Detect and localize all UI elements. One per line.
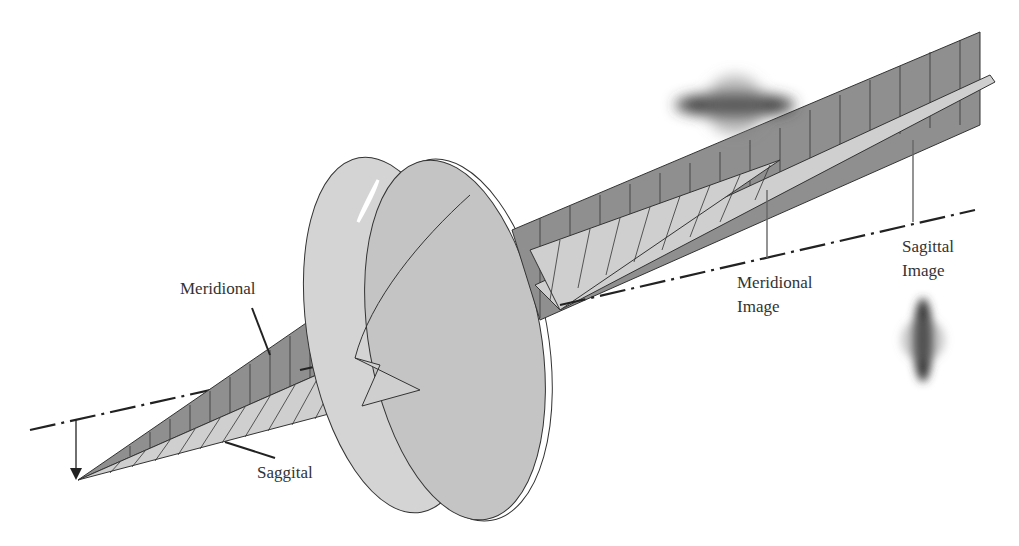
meridional-pointer: [252, 308, 270, 355]
saggital-label: Saggital: [257, 462, 313, 484]
sagittal-image-label-line1: Sagittal: [902, 236, 954, 258]
object-arrow: [70, 420, 82, 480]
meridional-label: Meridional: [180, 278, 256, 300]
astigmatism-diagram: [0, 0, 1019, 546]
sagittal-image-label-line2: Image: [902, 260, 944, 282]
meridional-image-label-line2: Image: [737, 296, 779, 318]
sagittal-image-spot: [901, 298, 945, 382]
meridional-image-label-line1: Meridional: [737, 272, 813, 294]
saggital-pointer: [225, 442, 275, 458]
